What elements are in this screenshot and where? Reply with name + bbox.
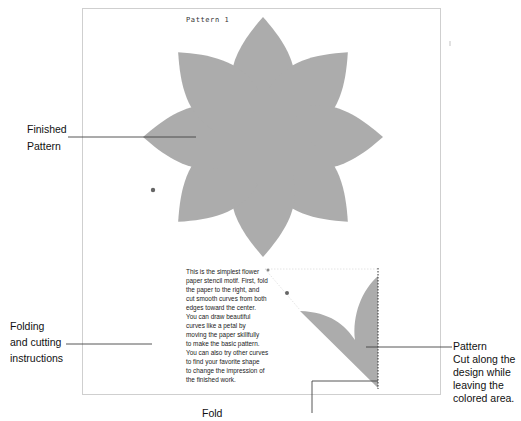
note-line: design while: [453, 366, 515, 379]
note-line: leaving the: [453, 379, 515, 392]
instruction-line: edges toward the center.: [186, 303, 306, 312]
instructions-text: This is the simplest flower paper stenci…: [186, 267, 306, 384]
instruction-line: paper stencil motif. First, fold: [186, 276, 306, 285]
pattern-note-title: Pattern: [453, 340, 515, 353]
label-line: and cutting: [10, 334, 63, 350]
instruction-line: the finished work.: [186, 375, 306, 384]
pattern-cut-note: Pattern Cut along the design while leavi…: [453, 340, 515, 405]
fold-label: Fold: [202, 405, 222, 421]
pattern-title: Pattern 1: [186, 16, 229, 24]
instruction-line: the paper to the right, and: [186, 285, 306, 294]
note-line: colored area.: [453, 392, 515, 405]
finished-pattern-label: Finished Pattern: [27, 121, 67, 155]
marker-dot: [151, 188, 155, 192]
instruction-line: You can also try other curves: [186, 348, 306, 357]
label-line: Finished: [27, 121, 67, 138]
instruction-line: curves like a petal by: [186, 321, 306, 330]
instruction-line: to make the basic pattern.: [186, 339, 306, 348]
label-line: Folding: [10, 318, 63, 334]
instruction-line: cut smooth curves from both: [186, 294, 306, 303]
instruction-line: This is the simplest flower: [186, 267, 306, 276]
instruction-line: You can draw beautiful: [186, 312, 306, 321]
instruction-line: to change the impression of: [186, 366, 306, 375]
note-line: Cut along the: [453, 353, 515, 366]
label-line: Pattern: [27, 138, 67, 155]
instruction-line: moving the paper skillfully: [186, 330, 306, 339]
fold-leader: [312, 381, 378, 413]
folding-instructions-label: Folding and cutting instructions: [10, 318, 63, 366]
instruction-line: to find your favorite shape: [186, 357, 306, 366]
label-line: instructions: [10, 350, 63, 366]
